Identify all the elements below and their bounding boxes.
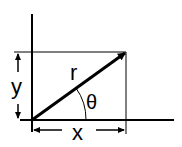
radius-label: r bbox=[70, 60, 77, 85]
diagram-svg: r θ y x bbox=[0, 0, 182, 147]
y-label: y bbox=[11, 74, 22, 99]
angle-arc bbox=[76, 88, 86, 120]
x-label: x bbox=[72, 120, 83, 145]
radius-vector-arrow bbox=[32, 53, 125, 120]
polar-coordinates-diagram: r θ y x bbox=[0, 0, 182, 147]
angle-label: θ bbox=[86, 91, 97, 113]
